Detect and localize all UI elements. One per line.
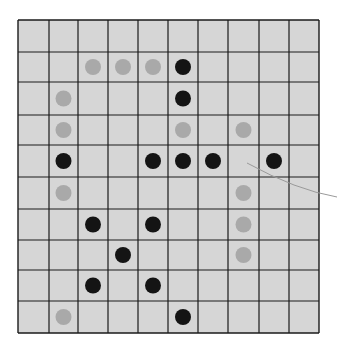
black-stone-icon[interactable] — [266, 153, 282, 169]
board-cell-r6-c5[interactable] — [168, 209, 198, 240]
gray-stone-icon[interactable] — [236, 247, 252, 263]
board-cell-r6-c6[interactable] — [198, 209, 228, 240]
board-cell-r1-c1[interactable] — [49, 52, 78, 82]
board-cell-r2-c6[interactable] — [198, 82, 228, 115]
board-cell-r2-c8[interactable] — [259, 82, 289, 115]
board-cell-r3-c9[interactable] — [289, 115, 319, 145]
board-cell-r5-c9[interactable] — [289, 177, 319, 209]
board-cell-r4-c0[interactable] — [18, 145, 49, 177]
black-stone-icon[interactable] — [175, 59, 191, 75]
gray-stone-icon[interactable] — [145, 59, 161, 75]
board-cell-r3-c6[interactable] — [198, 115, 228, 145]
gray-stone-icon[interactable] — [56, 185, 72, 201]
gray-stone-icon[interactable] — [85, 59, 101, 75]
black-stone-icon[interactable] — [175, 91, 191, 107]
board-cell-r7-c5[interactable] — [168, 240, 198, 270]
board-cell-r9-c2[interactable] — [78, 301, 108, 333]
board-cell-r3-c2[interactable] — [78, 115, 108, 145]
board-cell-r9-c3[interactable] — [108, 301, 138, 333]
board-cell-r6-c1[interactable] — [49, 209, 78, 240]
gray-stone-icon[interactable] — [56, 91, 72, 107]
board-cell-r3-c8[interactable] — [259, 115, 289, 145]
board-cell-r6-c3[interactable] — [108, 209, 138, 240]
board-cell-r0-c7[interactable] — [228, 20, 259, 52]
black-stone-icon[interactable] — [145, 153, 161, 169]
board-cell-r9-c0[interactable] — [18, 301, 49, 333]
gray-stone-icon[interactable] — [56, 309, 72, 325]
black-stone-icon[interactable] — [145, 278, 161, 294]
board-cell-r5-c6[interactable] — [198, 177, 228, 209]
board-cell-r5-c5[interactable] — [168, 177, 198, 209]
board-cell-r5-c2[interactable] — [78, 177, 108, 209]
board-cell-r1-c8[interactable] — [259, 52, 289, 82]
board-cell-r8-c3[interactable] — [108, 270, 138, 301]
board-cell-r7-c8[interactable] — [259, 240, 289, 270]
board-cell-r7-c4[interactable] — [138, 240, 168, 270]
gray-stone-icon[interactable] — [236, 217, 252, 233]
board-cell-r1-c7[interactable] — [228, 52, 259, 82]
board-cell-r9-c7[interactable] — [228, 301, 259, 333]
board-cell-r0-c0[interactable] — [18, 20, 49, 52]
board-cell-r8-c0[interactable] — [18, 270, 49, 301]
board-cell-r9-c9[interactable] — [289, 301, 319, 333]
board-cell-r7-c0[interactable] — [18, 240, 49, 270]
black-stone-icon[interactable] — [205, 153, 221, 169]
black-stone-icon[interactable] — [85, 217, 101, 233]
board-cell-r2-c2[interactable] — [78, 82, 108, 115]
board-cell-r4-c3[interactable] — [108, 145, 138, 177]
board-cell-r5-c4[interactable] — [138, 177, 168, 209]
board-cell-r9-c8[interactable] — [259, 301, 289, 333]
board-cell-r2-c3[interactable] — [108, 82, 138, 115]
board-cell-r5-c3[interactable] — [108, 177, 138, 209]
board-cell-r7-c9[interactable] — [289, 240, 319, 270]
board-cell-r0-c5[interactable] — [168, 20, 198, 52]
board-cell-r6-c9[interactable] — [289, 209, 319, 240]
board-cell-r4-c7[interactable] — [228, 145, 259, 177]
board-cell-r2-c0[interactable] — [18, 82, 49, 115]
board-cell-r1-c9[interactable] — [289, 52, 319, 82]
black-stone-icon[interactable] — [56, 153, 72, 169]
board-cell-r0-c1[interactable] — [49, 20, 78, 52]
board-cell-r5-c0[interactable] — [18, 177, 49, 209]
board-cell-r1-c0[interactable] — [18, 52, 49, 82]
board-cell-r0-c6[interactable] — [198, 20, 228, 52]
board-cell-r0-c3[interactable] — [108, 20, 138, 52]
board-cell-r7-c2[interactable] — [78, 240, 108, 270]
black-stone-icon[interactable] — [175, 309, 191, 325]
gray-stone-icon[interactable] — [115, 59, 131, 75]
board-cell-r8-c7[interactable] — [228, 270, 259, 301]
board-cell-r0-c2[interactable] — [78, 20, 108, 52]
board-cell-r0-c4[interactable] — [138, 20, 168, 52]
gray-stone-icon[interactable] — [236, 122, 252, 138]
board-cell-r8-c5[interactable] — [168, 270, 198, 301]
board-cell-r7-c1[interactable] — [49, 240, 78, 270]
black-stone-icon[interactable] — [145, 217, 161, 233]
board-cell-r6-c0[interactable] — [18, 209, 49, 240]
black-stone-icon[interactable] — [175, 153, 191, 169]
board-cell-r8-c8[interactable] — [259, 270, 289, 301]
board-cell-r6-c8[interactable] — [259, 209, 289, 240]
board-cell-r2-c4[interactable] — [138, 82, 168, 115]
board-cell-r3-c4[interactable] — [138, 115, 168, 145]
board-cell-r9-c6[interactable] — [198, 301, 228, 333]
board-cell-r3-c3[interactable] — [108, 115, 138, 145]
board-cell-r8-c9[interactable] — [289, 270, 319, 301]
board-cell-r3-c0[interactable] — [18, 115, 49, 145]
board-cell-r4-c2[interactable] — [78, 145, 108, 177]
black-stone-icon[interactable] — [85, 278, 101, 294]
board-cell-r8-c6[interactable] — [198, 270, 228, 301]
black-stone-icon[interactable] — [115, 247, 131, 263]
board-cell-r4-c9[interactable] — [289, 145, 319, 177]
gray-stone-icon[interactable] — [56, 122, 72, 138]
board-cell-r2-c7[interactable] — [228, 82, 259, 115]
board-cell-r2-c9[interactable] — [289, 82, 319, 115]
gray-stone-icon[interactable] — [236, 185, 252, 201]
board-cell-r9-c4[interactable] — [138, 301, 168, 333]
board-cell-r0-c8[interactable] — [259, 20, 289, 52]
board-cell-r7-c6[interactable] — [198, 240, 228, 270]
board-cell-r5-c8[interactable] — [259, 177, 289, 209]
board-cell-r0-c9[interactable] — [289, 20, 319, 52]
board-cell-r8-c1[interactable] — [49, 270, 78, 301]
board-cell-r1-c6[interactable] — [198, 52, 228, 82]
gray-stone-icon[interactable] — [175, 122, 191, 138]
